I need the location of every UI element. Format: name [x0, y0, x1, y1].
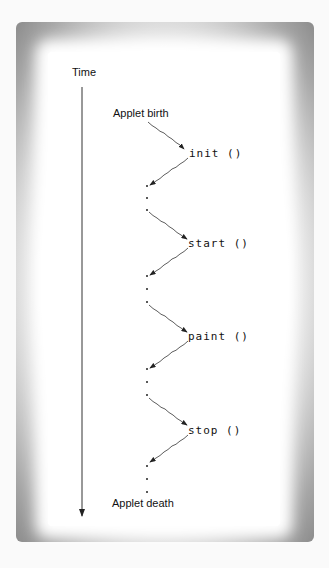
applet-birth-label: Applet birth: [113, 107, 169, 119]
method-start: start (): [188, 237, 249, 250]
applet-death-label: Applet death: [112, 497, 174, 509]
time-axis-label: Time: [72, 66, 96, 78]
ellipsis-dots: [146, 185, 148, 493]
method-stop: stop (): [188, 424, 241, 437]
method-paint: paint (): [188, 330, 249, 343]
method-init: init (): [189, 147, 242, 160]
lifecycle-arrows: [0, 0, 329, 568]
